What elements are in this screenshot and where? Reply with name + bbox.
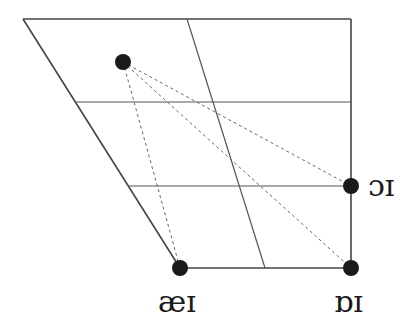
glide-path-aei xyxy=(123,62,180,268)
oi-point-dot xyxy=(343,178,359,194)
label-aei: æɪ xyxy=(158,284,196,319)
grid-center-line xyxy=(187,19,265,268)
glide-path-oi xyxy=(123,62,351,186)
frame-left-slant-line xyxy=(23,19,180,268)
glide-paths xyxy=(123,62,351,268)
start-point-dot xyxy=(115,54,131,70)
aei-point-dot xyxy=(172,260,188,276)
vowel-quadrilateral-diagram: ɔɪ æɪ ɒɪ xyxy=(0,0,419,329)
glide-path-obi xyxy=(123,62,351,268)
label-oi: ɔɪ xyxy=(368,168,394,203)
frame xyxy=(23,19,351,268)
obi-point-dot xyxy=(343,260,359,276)
label-obi: ɒɪ xyxy=(334,284,363,319)
